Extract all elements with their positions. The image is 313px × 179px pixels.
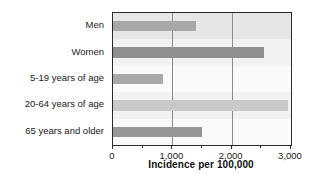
bar [113,74,163,85]
category-axis: MenWomen5-19 years of age20-64 years of … [0,12,108,144]
x-tick [112,145,113,149]
category-label: Women [0,47,104,57]
x-minor-tick [142,145,143,148]
category-label: Men [0,20,104,30]
bar [113,21,196,32]
bar [113,127,202,138]
x-tick [290,145,291,149]
category-label: 20-64 years of age [0,99,104,109]
category-label: 65 years and older [0,126,104,136]
x-tick [231,145,232,149]
x-minor-tick [260,145,261,148]
bar [113,100,288,111]
x-minor-tick [201,145,202,148]
x-tick [171,145,172,149]
gridline [232,13,233,145]
plot-area [112,12,292,146]
bar [113,47,264,58]
incidence-bar-chart: MenWomen5-19 years of age20-64 years of … [0,0,313,179]
x-axis-title: Incidence per 100,000 [112,159,290,170]
category-label: 5-19 years of age [0,73,104,83]
gridline [172,13,173,145]
